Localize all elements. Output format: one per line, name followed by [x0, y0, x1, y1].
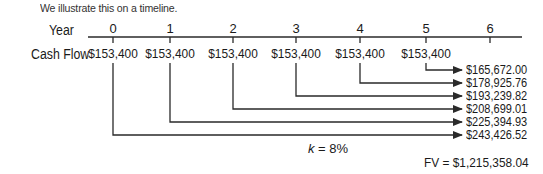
- total-future-value: FV = $1,215,358.04: [424, 155, 529, 170]
- timeline-diagram: [0, 0, 543, 174]
- future-value-year-4: $178,925.76: [466, 76, 527, 90]
- arrow-year-4: [360, 63, 462, 83]
- arrow-year-0: [113, 63, 462, 135]
- future-value-year-0: $243,426.52: [466, 128, 527, 142]
- interest-rate-label: k = 8%: [308, 141, 348, 156]
- k-value: = 8%: [315, 141, 349, 156]
- arrow-year-1: [170, 63, 462, 122]
- arrow-year-5: [426, 63, 462, 70]
- future-value-year-1: $225,394.93: [466, 115, 527, 129]
- arrow-year-3: [296, 63, 462, 96]
- future-value-year-2: $208,699.01: [466, 102, 527, 116]
- future-value-year-3: $193,239.82: [466, 89, 527, 103]
- future-value-year-5: $165,672.00: [466, 63, 527, 77]
